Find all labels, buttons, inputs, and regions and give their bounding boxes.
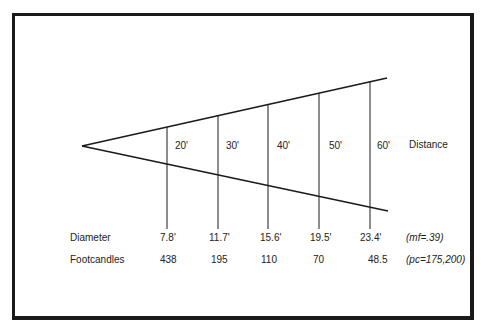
diameter-value: 11.7' — [209, 232, 230, 244]
footcandles-value: 438 — [160, 254, 177, 266]
footcandles-value: 110 — [261, 254, 277, 266]
footcandles-value: 48.5 — [368, 254, 387, 266]
distance-value: 20' — [175, 140, 188, 152]
footcandles-label: Footcandles — [70, 254, 124, 266]
light-beam-cone-diagram — [0, 0, 484, 328]
distance-value: 50' — [329, 140, 342, 152]
diameter-value: 23.4' — [360, 232, 381, 244]
distance-value: 40' — [277, 140, 290, 152]
distance-label: Distance — [409, 139, 448, 151]
diameter-value: 7.8' — [160, 232, 176, 244]
diameter-value: 15.6' — [260, 232, 281, 244]
footcandles-value: 70 — [313, 254, 324, 266]
diameter-note: (mf=.39) — [406, 232, 444, 244]
diameter-value: 19.5' — [310, 232, 331, 244]
diameter-label: Diameter — [70, 232, 111, 244]
beam-top-edge — [82, 78, 387, 146]
distance-value: 30' — [226, 140, 239, 152]
distance-value: 60' — [377, 140, 390, 152]
footcandles-note: (pc=175,200) — [406, 254, 465, 266]
footcandles-value: 195 — [211, 254, 228, 266]
beam-bottom-edge — [82, 146, 388, 211]
